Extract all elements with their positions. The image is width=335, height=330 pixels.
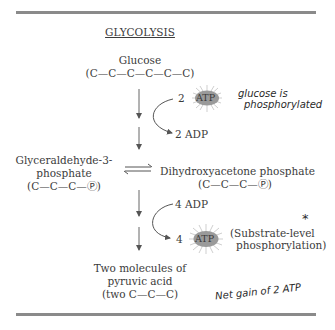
pyruvate-line3: (two C—C—C) xyxy=(85,288,195,300)
g3p-line1: Glyceraldehyde-3- xyxy=(14,154,114,166)
g3p-line2: phosphate xyxy=(14,167,114,179)
atp-in-count: 2 xyxy=(178,92,185,104)
substrate-level-note: (Substrate-level phosphorylation) xyxy=(230,227,326,251)
adp-out-label: 2 ADP xyxy=(175,128,208,140)
annotation-line1: glucose is xyxy=(238,88,322,99)
annotation-phosphorylated: glucose is phosphorylated xyxy=(238,88,322,110)
g3p-formula: (C—C—C—Ⓟ) xyxy=(14,180,114,192)
atp-out-count: 4 xyxy=(176,233,183,245)
atp-in-label: ATP xyxy=(196,92,215,103)
dhap-formula: (C—C—C—Ⓟ) xyxy=(160,178,310,190)
pyruvate-line2: pyruvic acid xyxy=(85,275,195,287)
note-line2: phosphorylation) xyxy=(230,239,326,251)
bottom-rule xyxy=(16,313,316,316)
adp-in-label: 4 ADP xyxy=(175,198,208,210)
star-mark: * xyxy=(302,213,309,224)
note-line1: (Substrate-level xyxy=(230,227,326,239)
pyruvate-line1: Two molecules of xyxy=(85,262,195,274)
annotation-line2: phosphorylated xyxy=(238,99,322,110)
atp-out-label: ATP xyxy=(195,233,214,244)
dhap-name: Dihydroxyacetone phosphate xyxy=(160,165,310,177)
